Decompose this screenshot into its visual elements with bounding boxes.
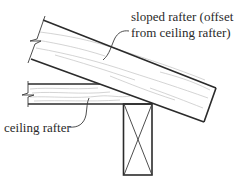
post <box>124 104 153 175</box>
rafter-detail-diagram: sloped rafter (offset from ceiling rafte… <box>0 0 236 184</box>
ceiling-rafter-label: ceiling rafter <box>4 120 71 135</box>
sloped-rafter-label-line1: sloped rafter (offset <box>131 9 234 24</box>
sloped-rafter-label-line2: from ceiling rafter) <box>131 25 231 40</box>
ceiling-rafter-leader <box>69 98 89 127</box>
ceiling-rafter-break-icon <box>22 81 34 107</box>
